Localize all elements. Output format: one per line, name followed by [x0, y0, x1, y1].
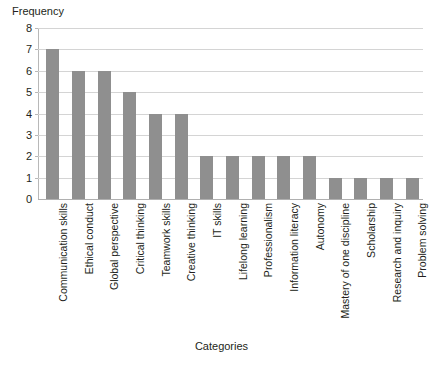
bar: [123, 92, 136, 199]
bar: [303, 156, 316, 199]
x-tick-label: Autonomy: [315, 203, 326, 250]
x-tick-label: Critical thinking: [135, 203, 146, 274]
plot-area: [38, 28, 423, 199]
x-tick-label: IT skills: [212, 203, 223, 238]
gridline-7: [38, 49, 423, 50]
gridline-3: [38, 135, 423, 136]
y-tick-label-6: 6: [0, 66, 32, 77]
y-tick-label-3: 3: [0, 130, 32, 141]
bar: [277, 156, 290, 199]
bar: [354, 178, 367, 199]
y-tick-label-4: 4: [0, 109, 32, 120]
bar: [329, 178, 342, 199]
x-tick-label: Communication skills: [58, 203, 69, 302]
bar: [380, 178, 393, 199]
x-tick-label: Information literacy: [289, 203, 300, 292]
bar-chart: Frequency 876543210 Communication skills…: [0, 0, 443, 369]
x-tick-label: Scholarship: [366, 203, 377, 258]
bar: [46, 49, 59, 199]
bar: [200, 156, 213, 199]
x-tick-label: Mastery of one discipline: [340, 203, 351, 319]
y-tick-mark-2: [35, 156, 38, 157]
y-tick-label-0: 0: [0, 194, 32, 205]
y-tick-mark-8: [35, 28, 38, 29]
bar: [226, 156, 239, 199]
x-tick-label: Research and inquiry: [392, 203, 403, 302]
x-tick-label: Teamwork skills: [161, 203, 172, 277]
bar: [149, 114, 162, 200]
gridline-5: [38, 92, 423, 93]
bar: [175, 114, 188, 200]
y-tick-label-7: 7: [0, 44, 32, 55]
bar: [252, 156, 265, 199]
x-axis-title: Categories: [0, 340, 443, 353]
gridline-8: [38, 28, 423, 29]
x-tick-label: Lifelong learning: [238, 203, 249, 280]
x-tick-label: Problem solving: [417, 203, 428, 278]
y-tick-mark-5: [35, 92, 38, 93]
y-tick-mark-7: [35, 49, 38, 50]
x-tick-label: Professionalism: [263, 203, 274, 277]
x-tick-label: Global perspective: [109, 203, 120, 290]
bar: [406, 178, 419, 199]
y-tick-mark-4: [35, 114, 38, 115]
y-tick-mark-3: [35, 135, 38, 136]
bar: [98, 71, 111, 199]
y-tick-mark-6: [35, 71, 38, 72]
x-tick-label: Ethical conduct: [84, 203, 95, 274]
y-tick-mark-1: [35, 178, 38, 179]
y-tick-label-1: 1: [0, 173, 32, 184]
y-tick-label-8: 8: [0, 23, 32, 34]
gridline-4: [38, 114, 423, 115]
y-tick-label-5: 5: [0, 87, 32, 98]
gridline-6: [38, 71, 423, 72]
y-axis-title: Frequency: [12, 5, 64, 18]
gridline-0: [38, 199, 423, 200]
bar: [72, 71, 85, 199]
x-tick-label: Creative thinking: [186, 203, 197, 281]
y-tick-label-2: 2: [0, 151, 32, 162]
